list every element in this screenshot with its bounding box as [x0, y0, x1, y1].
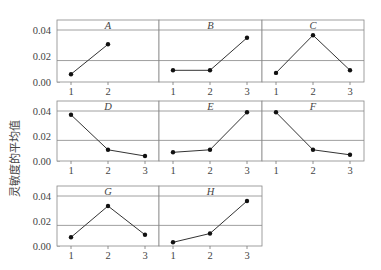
- data-point: [106, 42, 110, 46]
- x-tick-label: 1: [68, 86, 73, 97]
- x-tick-label: 2: [207, 86, 212, 97]
- data-point: [311, 33, 315, 37]
- panel-title: A: [104, 20, 112, 31]
- faceted-line-chart: 灵敏度的平均值 0.000.020.040.000.020.040.000.02…: [0, 0, 381, 270]
- x-tick-label: 2: [105, 165, 110, 176]
- y-tick-label: 0.04: [33, 106, 52, 117]
- data-point: [171, 150, 175, 154]
- data-point: [69, 235, 73, 239]
- x-tick-label: 2: [310, 86, 315, 97]
- y-tick-label: 0.00: [33, 241, 51, 252]
- x-tick-label: 3: [347, 86, 352, 97]
- x-tick-label: 1: [68, 165, 73, 176]
- panel-e: E123: [159, 101, 262, 177]
- x-tick-label: 1: [273, 86, 278, 97]
- x-tick-label: 3: [244, 165, 249, 176]
- panel-title: H: [206, 186, 216, 197]
- y-tick-label: 0.02: [33, 216, 51, 227]
- x-tick-label: 1: [170, 165, 175, 176]
- x-tick-label: 1: [170, 86, 175, 97]
- panel-title: C: [309, 20, 317, 31]
- x-tick-label: 2: [105, 250, 110, 261]
- panel-title: B: [207, 20, 214, 31]
- data-point: [171, 68, 175, 72]
- panel-a: A12: [57, 20, 159, 98]
- x-tick-label: 3: [142, 165, 147, 176]
- panel-c: C123: [262, 20, 364, 98]
- y-tick-label: 0.00: [33, 156, 51, 167]
- x-tick-label: 3: [142, 250, 147, 261]
- panel-g: G123: [57, 186, 159, 262]
- data-point: [69, 113, 73, 117]
- data-point: [274, 110, 278, 114]
- x-tick-label: 2: [310, 165, 315, 176]
- panel-title: E: [206, 101, 214, 112]
- data-point: [348, 68, 352, 72]
- data-point: [106, 204, 110, 208]
- panel-f: F123: [262, 101, 364, 177]
- panel-b: B123: [159, 20, 262, 98]
- panel-title: G: [104, 186, 112, 197]
- data-point: [311, 148, 315, 152]
- data-point: [274, 71, 278, 75]
- panel-h: H123: [159, 186, 262, 262]
- data-point: [245, 36, 249, 40]
- panel-d: D123: [57, 101, 159, 177]
- data-point: [106, 148, 110, 152]
- x-tick-label: 2: [105, 86, 110, 97]
- data-point: [208, 148, 212, 152]
- data-point: [348, 153, 352, 157]
- y-tick-label: 0.00: [33, 77, 51, 88]
- x-tick-label: 1: [68, 250, 73, 261]
- panel-title: D: [103, 101, 112, 112]
- x-tick-label: 2: [207, 165, 212, 176]
- x-tick-label: 3: [244, 250, 249, 261]
- data-point: [245, 110, 249, 114]
- x-tick-label: 1: [273, 165, 278, 176]
- data-point: [245, 199, 249, 203]
- data-point: [208, 68, 212, 72]
- y-axis-label: 灵敏度的平均值: [8, 120, 21, 197]
- y-tick-label: 0.04: [33, 191, 52, 202]
- y-tick-label: 0.04: [33, 25, 52, 36]
- y-tick-label: 0.02: [33, 51, 51, 62]
- y-tick-label: 0.02: [33, 131, 51, 142]
- panel-title: F: [309, 101, 317, 112]
- x-tick-label: 3: [347, 165, 352, 176]
- data-point: [143, 233, 147, 237]
- data-point: [69, 72, 73, 76]
- data-point: [171, 240, 175, 244]
- x-tick-label: 3: [244, 86, 249, 97]
- data-point: [143, 154, 147, 158]
- x-tick-label: 1: [170, 250, 175, 261]
- x-tick-label: 2: [207, 250, 212, 261]
- data-point: [208, 231, 212, 235]
- panels: 0.000.020.040.000.020.040.000.020.04A12B…: [33, 20, 364, 262]
